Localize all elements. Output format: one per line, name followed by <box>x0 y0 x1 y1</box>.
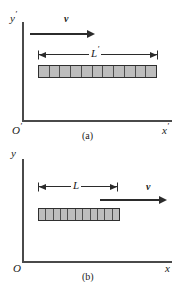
x-axis-label-text: x <box>165 262 170 274</box>
rod-segment <box>114 66 125 77</box>
y-axis-label: y <box>11 148 16 159</box>
dimension-arrowhead-left-b <box>39 184 46 190</box>
rod-segment <box>68 209 75 220</box>
dimension-label-a: L′ <box>89 45 101 59</box>
panel-a: y′ x′ O′ v L′ (a) <box>0 0 180 141</box>
dimension-label-a-prime: ′ <box>97 44 99 54</box>
velocity-label-a: v <box>64 14 68 24</box>
x-axis-label: x <box>165 263 170 274</box>
x-prime-mark: ′ <box>167 121 169 131</box>
rod-segment <box>125 66 136 77</box>
rod-segment <box>54 209 61 220</box>
y-prime-mark: ′ <box>15 9 17 19</box>
origin-prime-mark: ′ <box>20 121 22 131</box>
rod-segment <box>91 209 98 220</box>
origin-label: O <box>13 263 21 274</box>
rod-segment <box>105 209 112 220</box>
rod-segment <box>82 66 93 77</box>
origin-prime-label: O′ <box>12 122 22 136</box>
rod-segment <box>60 66 71 77</box>
origin-label-text: O <box>13 262 21 274</box>
y-prime-axis-label: y′ <box>10 10 17 24</box>
y-axis-label-text: y <box>11 147 16 159</box>
rod-segment <box>93 66 104 77</box>
rod-segment <box>76 209 83 220</box>
velocity-label-b: v <box>146 182 150 192</box>
rod-segment <box>39 209 46 220</box>
rod-segment <box>61 209 68 220</box>
y-prime-axis <box>22 22 24 122</box>
rod-segment <box>103 66 114 77</box>
rod-segment <box>98 209 105 220</box>
x-prime-axis <box>22 120 172 122</box>
rod-segment <box>50 66 61 77</box>
panel-b: y x O L v (b) <box>0 141 180 282</box>
dimension-arrowhead-left-a <box>39 52 46 58</box>
rod-segment <box>46 209 53 220</box>
rod-segment <box>113 209 119 220</box>
dimension-tick-right-a <box>157 50 158 59</box>
x-axis <box>22 261 172 263</box>
dimension-label-b: L <box>71 177 81 191</box>
caption-b: (b) <box>82 271 94 282</box>
rod-segment <box>71 66 82 77</box>
velocity-arrow-b <box>100 199 160 201</box>
dimension-tick-right-b <box>117 182 118 191</box>
rod-segment <box>136 66 147 77</box>
rod-proper-length <box>38 65 157 78</box>
rod-segment <box>83 209 90 220</box>
rod-segment <box>146 66 156 77</box>
caption-a: (a) <box>82 130 93 141</box>
velocity-arrow-a <box>30 33 88 35</box>
dimension-label-b-text: L <box>73 179 79 191</box>
x-prime-axis-label: x′ <box>162 122 169 136</box>
y-axis <box>22 159 24 263</box>
rod-segment <box>39 66 50 77</box>
rod-contracted-length <box>38 208 120 221</box>
length-contraction-figure: y′ x′ O′ v L′ (a) y <box>0 0 180 282</box>
origin-prime-label-text: O <box>12 124 20 136</box>
